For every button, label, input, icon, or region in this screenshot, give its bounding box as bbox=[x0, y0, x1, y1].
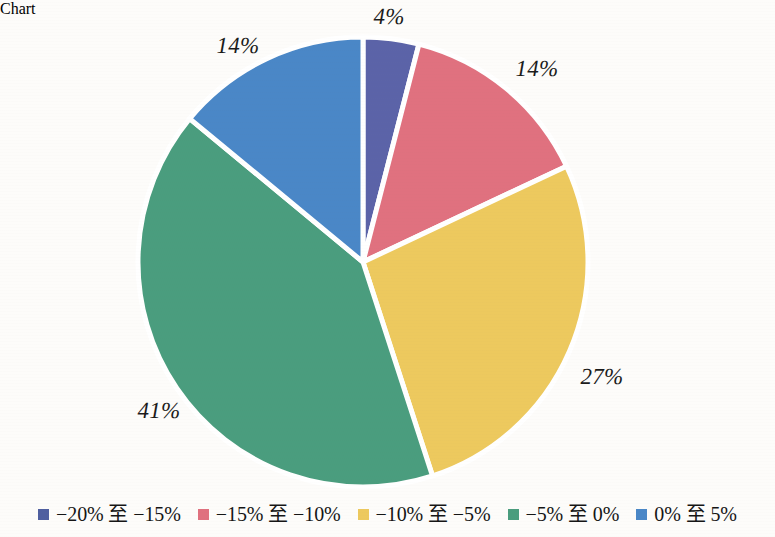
legend-item-label: −15% 至 −10% bbox=[216, 504, 341, 524]
legend-swatch-icon bbox=[508, 509, 519, 520]
legend-item: 0% 至 5% bbox=[636, 504, 737, 524]
pie-plot-area: 4%14%14%27%41% bbox=[0, 0, 775, 495]
legend-swatch-icon bbox=[38, 509, 49, 520]
pie-slice-value-label: 27% bbox=[581, 364, 624, 390]
legend-swatch-icon bbox=[198, 509, 209, 520]
pie-svg bbox=[0, 0, 775, 495]
chart-legend: −20% 至 −15%−15% 至 −10%−10% 至 −5%−5% 至 0%… bbox=[0, 497, 775, 531]
pie-slice-value-label: 41% bbox=[138, 398, 181, 424]
pie-slice-value-label: 14% bbox=[516, 56, 559, 82]
legend-item-label: 0% 至 5% bbox=[654, 504, 737, 524]
legend-item: −10% 至 −5% bbox=[358, 504, 491, 524]
pie-slice-value-label: 4% bbox=[373, 4, 404, 30]
legend-item-label: −10% 至 −5% bbox=[376, 504, 491, 524]
pie-slice-value-label: 14% bbox=[217, 33, 260, 59]
pie-slice-group bbox=[138, 37, 588, 487]
legend-swatch-icon bbox=[358, 509, 369, 520]
legend-item: −5% 至 0% bbox=[508, 504, 620, 524]
pie-chart-figure: 4%14%14%27%41% −20% 至 −15%−15% 至 −10%−10… bbox=[0, 0, 775, 537]
legend-item-label: −20% 至 −15% bbox=[56, 504, 181, 524]
legend-item: −20% 至 −15% bbox=[38, 504, 181, 524]
legend-item-label: −5% 至 0% bbox=[526, 504, 620, 524]
legend-item: −15% 至 −10% bbox=[198, 504, 341, 524]
legend-swatch-icon bbox=[636, 509, 647, 520]
